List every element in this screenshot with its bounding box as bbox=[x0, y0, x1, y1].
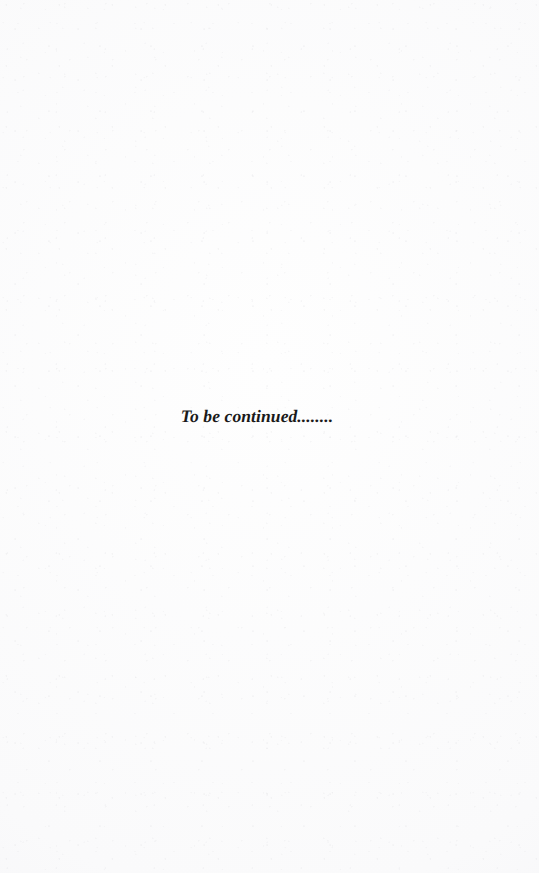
paper-texture-overlay bbox=[0, 0, 539, 873]
book-page: To be continued........ bbox=[0, 0, 539, 873]
continuation-note: To be continued........ bbox=[0, 404, 539, 430]
page-tint-overlay bbox=[0, 0, 539, 873]
continuation-note-text: To be continued........ bbox=[181, 408, 333, 426]
